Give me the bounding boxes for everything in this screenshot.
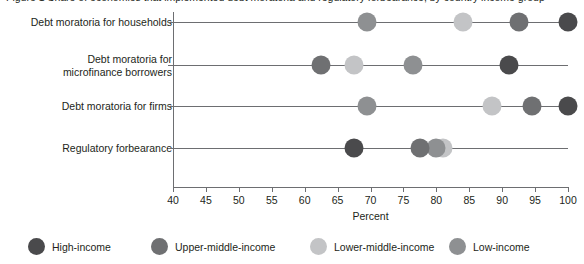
legend-item[interactable]: High-income (28, 238, 111, 255)
category-label: Debt moratoria for microfinance borrower… (63, 53, 172, 78)
category-label: Regulatory forbearance (62, 142, 172, 155)
data-point[interactable] (522, 97, 541, 116)
x-tick (535, 187, 536, 192)
data-point[interactable] (345, 139, 364, 158)
legend-label: Lower-middle-income (334, 241, 434, 253)
x-tick (272, 187, 273, 192)
x-tick-label: 45 (200, 194, 212, 206)
data-point[interactable] (499, 56, 518, 75)
category-label: Debt moratoria for firms (62, 100, 172, 113)
x-tick (371, 187, 372, 192)
legend-label: High-income (52, 241, 111, 253)
x-tick-label: 90 (496, 194, 508, 206)
legend-item[interactable]: Low-income (449, 238, 530, 255)
x-tick-label: 55 (266, 194, 278, 206)
x-tick (206, 187, 207, 192)
data-point[interactable] (404, 56, 423, 75)
legend-label: Low-income (473, 241, 530, 253)
legend-swatch-icon (28, 238, 45, 255)
x-tick (568, 187, 569, 192)
x-tick-label: 40 (167, 194, 179, 206)
x-tick (173, 187, 174, 192)
legend-label: Upper-middle-income (175, 241, 275, 253)
x-tick (436, 187, 437, 192)
data-point[interactable] (427, 139, 446, 158)
x-tick-label: 50 (233, 194, 245, 206)
category-label: Debt moratoria for households (31, 16, 172, 29)
x-tick-label: 65 (332, 194, 344, 206)
dot-plot-chart: Debt moratoria for householdsDebt morato… (0, 0, 584, 264)
x-tick (403, 187, 404, 192)
x-tick (305, 187, 306, 192)
data-point[interactable] (559, 13, 578, 32)
x-tick (239, 187, 240, 192)
x-tick (338, 187, 339, 192)
x-tick-label: 60 (299, 194, 311, 206)
x-tick-label: 100 (559, 194, 577, 206)
x-tick-label: 75 (398, 194, 410, 206)
legend-swatch-icon (449, 238, 466, 255)
data-point[interactable] (358, 13, 377, 32)
x-axis-title: Percent (173, 210, 568, 222)
legend-item[interactable]: Upper-middle-income (151, 238, 275, 255)
x-tick-label: 80 (430, 194, 442, 206)
x-tick (469, 187, 470, 192)
data-point[interactable] (312, 56, 331, 75)
data-point[interactable] (483, 97, 502, 116)
data-point[interactable] (509, 13, 528, 32)
data-point[interactable] (358, 97, 377, 116)
y-axis-line (173, 12, 174, 187)
data-point[interactable] (453, 13, 472, 32)
data-point[interactable] (345, 56, 364, 75)
x-tick-label: 85 (463, 194, 475, 206)
x-tick-label: 70 (365, 194, 377, 206)
data-point[interactable] (559, 97, 578, 116)
category-baseline (173, 148, 568, 149)
x-tick (502, 187, 503, 192)
data-point[interactable] (410, 139, 429, 158)
legend-item[interactable]: Lower-middle-income (310, 238, 434, 255)
legend-swatch-icon (151, 238, 168, 255)
x-tick-label: 95 (529, 194, 541, 206)
chart-legend: High-incomeUpper-middle-incomeLower-midd… (0, 238, 584, 262)
legend-swatch-icon (310, 238, 327, 255)
